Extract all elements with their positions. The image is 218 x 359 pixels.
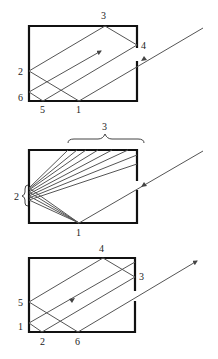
ray-segment [29,258,103,302]
label-1: 1 [18,321,23,332]
diagram-canvas: 3 4 2 6 5 1 3 [0,0,218,359]
ray-segment [29,323,42,332]
internal-arrow [29,51,101,92]
label-6: 6 [75,336,80,347]
reflected-fan-2-to-3 [29,150,137,200]
panel-bottom: 4 3 5 1 2 6 [18,243,197,347]
label-4: 4 [99,243,104,254]
label-4: 4 [141,40,146,51]
brace-left [22,185,28,206]
panel-middle: 3 2 1 [14,121,203,238]
outgoing-ray [78,261,197,332]
ray-segment [105,26,137,45]
label-6: 6 [18,92,23,103]
label-1: 1 [76,104,81,115]
arrowhead-icon [69,298,75,303]
label-1: 1 [76,227,81,238]
ray-segment [42,277,135,332]
label-5: 5 [40,104,45,115]
label-2: 2 [18,66,23,77]
arrowhead-icon [141,56,147,61]
cavity-box-bottom [29,258,135,332]
cavity-box-top [29,26,137,101]
panel-top: 3 4 2 6 5 1 [18,10,203,115]
ray-segment [29,92,43,101]
incoming-ray [79,28,203,101]
ray-segment [29,26,105,71]
reflected-fan-1-to-2 [29,188,79,223]
label-2: 2 [14,191,19,202]
label-3: 3 [139,271,144,282]
ray-segment [43,45,137,101]
label-2: 2 [40,336,45,347]
label-3: 3 [102,121,107,132]
brace-top [68,134,144,143]
ray-segment [103,258,135,277]
label-3: 3 [101,10,106,21]
label-5: 5 [18,297,23,308]
